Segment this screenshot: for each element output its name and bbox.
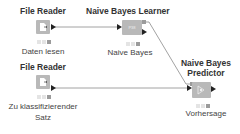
predictor-icon	[192, 82, 211, 98]
status-indicator	[126, 42, 140, 46]
model-output-port[interactable]	[142, 20, 146, 24]
node-title: Predictor	[176, 68, 236, 78]
file-reader-node[interactable]	[36, 20, 50, 34]
node-title: Naive Bayes	[176, 58, 236, 68]
node-label[interactable]: Zu klassifizierender	[0, 101, 86, 112]
output-port-icon[interactable]	[142, 29, 147, 35]
node-label[interactable]: Naive Bayes	[100, 47, 160, 58]
learner-icon: P38	[122, 25, 142, 30]
node-title: Naive Bayes Learner	[86, 6, 166, 16]
naive-bayes-learner-node[interactable]: P38	[122, 20, 142, 35]
node-label[interactable]: Vorhersage	[176, 108, 236, 119]
naive-bayes-predictor-node[interactable]	[192, 82, 211, 98]
file-reader-node[interactable]	[36, 75, 50, 89]
node-title: File Reader	[20, 6, 66, 16]
node-label[interactable]: Satz	[0, 112, 86, 123]
output-port-icon[interactable]	[51, 24, 56, 30]
status-indicator	[37, 40, 51, 44]
workflow-canvas[interactable]: File Reader Daten lesen Naive Bayes Lear…	[0, 0, 240, 134]
node-label[interactable]: Daten lesen	[14, 46, 72, 57]
node-title: File Reader	[20, 62, 66, 72]
output-port-icon[interactable]	[51, 85, 56, 91]
file-reader-icon	[36, 20, 50, 34]
status-indicator	[37, 95, 51, 99]
file-reader-icon	[36, 75, 50, 89]
output-port-icon[interactable]	[211, 86, 216, 92]
